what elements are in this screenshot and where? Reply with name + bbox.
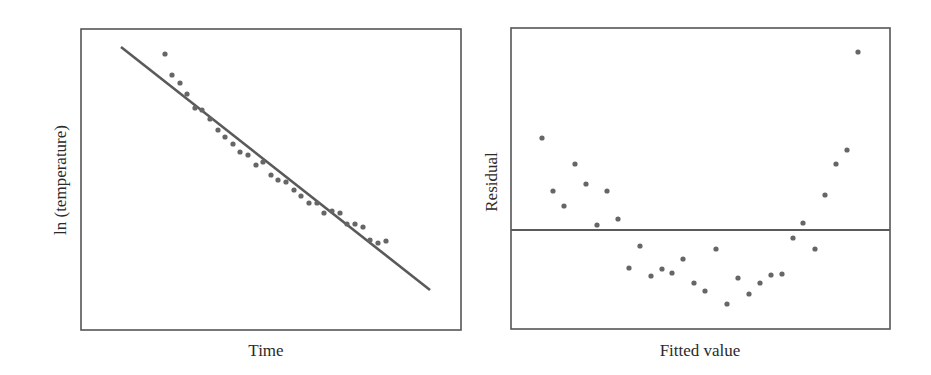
data-point <box>268 172 273 177</box>
left-scatter-plot: Time ln (temperature) <box>51 29 461 360</box>
data-point <box>702 288 707 293</box>
chart-canvas: Time ln (temperature) Fitted value Resid… <box>0 0 931 375</box>
data-point <box>626 265 631 270</box>
data-point <box>177 80 182 85</box>
data-point <box>383 238 388 243</box>
data-point <box>245 152 250 157</box>
data-point <box>298 193 303 198</box>
data-point <box>561 203 566 208</box>
data-point <box>306 200 311 205</box>
data-point <box>800 220 805 225</box>
data-point <box>637 243 642 248</box>
data-point <box>746 291 751 296</box>
y-axis-label-residual: Residual <box>482 152 501 212</box>
data-point <box>691 280 696 285</box>
residual-data-points <box>539 49 860 306</box>
data-point <box>192 105 197 110</box>
data-point <box>583 181 588 186</box>
data-point <box>367 237 372 242</box>
data-point <box>184 91 189 96</box>
data-point <box>713 246 718 251</box>
data-point <box>779 271 784 276</box>
data-point <box>855 49 860 54</box>
data-point <box>207 116 212 121</box>
fit-line <box>121 47 430 290</box>
data-point <box>162 51 167 56</box>
data-point <box>724 301 729 306</box>
data-point <box>572 161 577 166</box>
data-point <box>669 270 674 275</box>
right-plot-frame <box>511 28 890 329</box>
data-point <box>275 177 280 182</box>
data-point <box>659 266 664 271</box>
data-point <box>199 107 204 112</box>
data-point <box>314 200 319 205</box>
data-point <box>833 161 838 166</box>
data-point <box>352 221 357 226</box>
data-point <box>604 188 609 193</box>
data-point <box>648 273 653 278</box>
data-point <box>215 127 220 132</box>
data-point <box>539 135 544 140</box>
data-point <box>768 272 773 277</box>
data-point <box>283 179 288 184</box>
data-point <box>253 162 258 167</box>
data-point <box>360 224 365 229</box>
data-point <box>550 188 555 193</box>
data-point <box>291 187 296 192</box>
data-point <box>615 216 620 221</box>
data-point <box>757 280 762 285</box>
left-plot-frame <box>81 29 461 330</box>
data-point <box>375 240 380 245</box>
data-point <box>812 246 817 251</box>
data-point <box>844 147 849 152</box>
data-point <box>329 208 334 213</box>
data-point <box>790 235 795 240</box>
data-point <box>169 72 174 77</box>
data-point <box>237 149 242 154</box>
y-axis-label-ln-temperature: ln (temperature) <box>51 125 70 235</box>
data-point <box>230 141 235 146</box>
data-point <box>735 275 740 280</box>
x-axis-label-fitted-value: Fitted value <box>660 341 741 360</box>
data-point <box>260 159 265 164</box>
data-point <box>822 192 827 197</box>
right-residual-plot: Fitted value Residual <box>482 28 890 360</box>
data-point <box>222 134 227 139</box>
data-point <box>594 222 599 227</box>
data-point <box>680 256 685 261</box>
data-point <box>321 210 326 215</box>
data-point <box>344 221 349 226</box>
x-axis-label-time: Time <box>248 341 283 360</box>
data-point <box>337 210 342 215</box>
left-data-points <box>162 51 388 245</box>
